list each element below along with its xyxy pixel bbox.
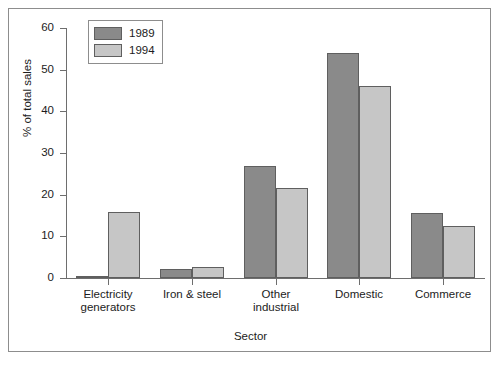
x-tick-label-line: Other (230, 288, 322, 301)
legend-item-1989: 1989 (94, 25, 155, 42)
x-tick-label-line: Domestic (313, 288, 405, 301)
legend-swatch-1994 (94, 44, 122, 57)
legend-label-1994: 1994 (129, 45, 155, 57)
x-tick-label-3: Domestic (313, 288, 405, 301)
x-tick-1 (192, 279, 193, 285)
y-tick-60 (60, 28, 66, 29)
legend-item-1994: 1994 (94, 42, 155, 59)
x-tick-label-line: generators (62, 301, 154, 314)
y-tick-20 (60, 195, 66, 196)
x-tick-2 (276, 279, 277, 285)
x-tick-4 (443, 279, 444, 285)
x-tick-label-2: Otherindustrial (230, 288, 322, 314)
bar-1994-domestic (359, 86, 391, 279)
y-tick-label-0: 0 (14, 272, 54, 284)
x-tick-label-line: Electricity (62, 288, 154, 301)
y-tick-label-40: 40 (14, 105, 54, 117)
bar-1994-iron-steel (192, 267, 224, 278)
x-tick-label-line: Commerce (397, 288, 489, 301)
y-tick-label-50: 50 (14, 64, 54, 76)
y-axis-title: % of total sales (21, 33, 33, 163)
bar-1989-iron-steel (160, 269, 192, 278)
y-tick-10 (60, 236, 66, 237)
bar-1994-other-industrial (276, 188, 308, 278)
x-tick-label-line: industrial (230, 301, 322, 314)
y-tick-label-60: 60 (14, 22, 54, 34)
x-axis-title: Sector (0, 330, 501, 342)
bar-1994-electricity-generators (108, 212, 140, 278)
y-tick-30 (60, 153, 66, 154)
x-tick-label-1: Iron & steel (146, 288, 238, 301)
chart-legend: 1989 1994 (88, 20, 163, 64)
legend-label-1989: 1989 (129, 28, 155, 40)
bar-1989-domestic (327, 53, 359, 278)
bar-1989-other-industrial (244, 166, 276, 279)
y-tick-label-10: 10 (14, 230, 54, 242)
y-tick-label-20: 20 (14, 189, 54, 201)
bar-1989-electricity-generators (76, 276, 108, 278)
y-axis-line (66, 28, 67, 278)
bar-1989-commerce (411, 213, 443, 278)
y-tick-40 (60, 111, 66, 112)
x-tick-0 (108, 279, 109, 285)
bar-1994-commerce (443, 226, 475, 279)
chart-figure: 0102030405060 ElectricitygeneratorsIron … (0, 0, 501, 370)
x-tick-label-line: Iron & steel (146, 288, 238, 301)
x-tick-label-0: Electricitygenerators (62, 288, 154, 314)
y-tick-label-30: 30 (14, 147, 54, 159)
x-tick-label-4: Commerce (397, 288, 489, 301)
x-tick-3 (359, 279, 360, 285)
legend-swatch-1989 (94, 27, 122, 40)
y-tick-50 (60, 70, 66, 71)
y-tick-0 (60, 278, 66, 279)
